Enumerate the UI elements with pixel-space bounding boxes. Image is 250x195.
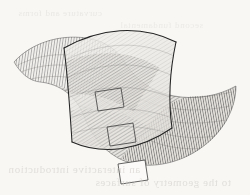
surface-illustration [0, 0, 250, 195]
saddle-surface-figure: an interactive introduction to the geome… [0, 0, 250, 195]
marker-lower [118, 160, 148, 184]
